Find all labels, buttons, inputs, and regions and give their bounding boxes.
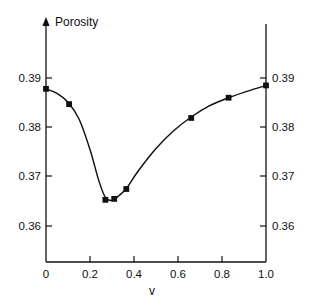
x-tick-label-0: 0: [43, 268, 49, 280]
x-axis-title: v: [149, 284, 155, 298]
y-axis-right-ticks: [260, 78, 266, 226]
x-tick-label-5: 1.0: [258, 268, 274, 280]
y-tick-label-left-3: 0.39: [19, 72, 41, 84]
data-point-marker: [226, 95, 232, 101]
data-point-marker: [123, 186, 129, 192]
data-point-marker: [188, 115, 194, 121]
x-tick-label-3: 0.6: [170, 268, 186, 280]
y-axis-left-tick-labels: 0.39 0.38 0.37 0.36: [19, 72, 41, 232]
data-point-marker: [103, 197, 109, 203]
y-tick-label-left-2: 0.38: [19, 121, 41, 133]
chart-figure: 0.39 0.38 0.37 0.36 0.39 0.38 0.37 0.36: [0, 0, 327, 305]
x-tick-label-2: 0.4: [126, 268, 143, 280]
porosity-vs-v-chart: 0.39 0.38 0.37 0.36 0.39 0.38 0.37 0.36: [0, 0, 327, 305]
axis-frame: [42, 17, 266, 262]
fitted-curve: [46, 85, 266, 200]
x-axis-ticks: [90, 256, 222, 262]
y-axis-arrow-icon: [42, 17, 49, 26]
y-axis-left-ticks: [46, 78, 52, 226]
x-axis-tick-labels: 0 0.2 0.4 0.6 0.8 1.0: [43, 268, 274, 280]
data-point-marker: [263, 83, 269, 89]
y-axis-right-tick-labels: 0.39 0.38 0.37 0.36: [272, 72, 294, 232]
data-point-marker: [43, 86, 49, 92]
y-tick-label-left-0: 0.36: [19, 220, 41, 232]
y-tick-label-right-2: 0.38: [272, 121, 294, 133]
data-point-markers: [43, 83, 269, 203]
data-point-marker: [111, 196, 117, 202]
x-tick-label-4: 0.8: [214, 268, 230, 280]
y-tick-label-right-0: 0.36: [272, 220, 294, 232]
x-tick-label-1: 0.2: [82, 268, 98, 280]
data-point-marker: [66, 101, 72, 107]
y-axis-title: Porosity: [55, 15, 98, 29]
y-tick-label-left-1: 0.37: [19, 170, 41, 182]
y-tick-label-right-1: 0.37: [272, 170, 294, 182]
y-tick-label-right-3: 0.39: [272, 72, 294, 84]
